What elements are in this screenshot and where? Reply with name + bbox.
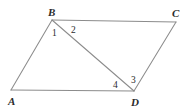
- vertex-label-B: B: [48, 7, 55, 18]
- figure-canvas: [0, 0, 192, 110]
- side-CD: [134, 22, 176, 91]
- angle-label-2: 2: [71, 26, 76, 36]
- side-AB: [11, 20, 52, 90]
- angle-label-4: 4: [113, 81, 118, 91]
- angle-label-1: 1: [52, 29, 57, 39]
- angle-label-3: 3: [131, 76, 136, 86]
- geometry-figure: A B C D 1 2 3 4: [0, 0, 192, 110]
- vertex-label-A: A: [8, 96, 15, 107]
- vertex-label-D: D: [131, 97, 139, 108]
- vertex-label-C: C: [172, 8, 179, 19]
- diagonal-BD: [52, 20, 134, 91]
- side-BC: [52, 20, 176, 22]
